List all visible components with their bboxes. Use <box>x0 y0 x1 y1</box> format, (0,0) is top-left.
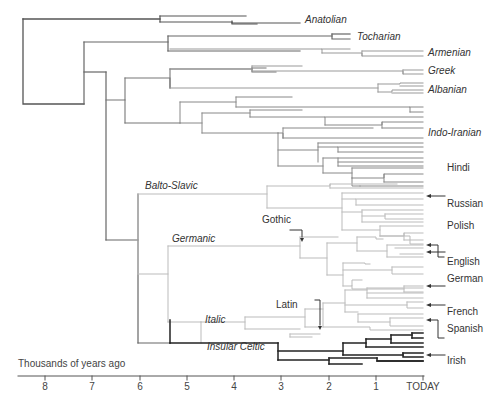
label-anatolian: Anatolian <box>304 14 347 25</box>
label-french: French <box>447 306 478 317</box>
label-armenian: Armenian <box>427 47 471 58</box>
label-latin: Latin <box>276 299 298 310</box>
balto-slavic-branch <box>138 184 423 274</box>
axis-tick-2: 2 <box>326 381 332 392</box>
core-branch <box>84 72 106 240</box>
label-spanish: Spanish <box>447 323 483 334</box>
label-greek: Greek <box>428 65 456 76</box>
language-tree-diagram: Anatolian Tocharian Armenian Greek Alban… <box>0 0 496 401</box>
label-italic: Italic <box>205 314 226 325</box>
armenian-branch <box>170 49 423 56</box>
pointer-arrows <box>290 196 445 355</box>
label-gothic: Gothic <box>262 214 291 225</box>
label-german: German <box>447 273 483 284</box>
label-insular-celtic: Insular Celtic <box>207 341 265 352</box>
axis-tick-8: 8 <box>42 381 48 392</box>
label-polish: Polish <box>447 220 474 231</box>
axis-tick-4: 4 <box>231 381 237 392</box>
label-indo-iranian: Indo-Iranian <box>428 127 482 138</box>
axis-tick-3: 3 <box>278 381 284 392</box>
axis-title: Thousands of years ago <box>18 358 126 369</box>
anatolian-branch <box>160 16 300 24</box>
albanian-branch <box>170 83 423 93</box>
greek-branch <box>170 66 423 74</box>
indo-iranian-branch <box>180 97 423 186</box>
label-hindi: Hindi <box>447 162 470 173</box>
label-balto-slavic: Balto-Slavic <box>145 180 198 191</box>
root-branch <box>23 19 160 104</box>
axis-tick-today: TODAY <box>406 381 440 392</box>
label-germanic: Germanic <box>172 233 215 244</box>
label-russian: Russian <box>447 198 483 209</box>
time-axis <box>18 376 424 380</box>
label-albanian: Albanian <box>427 84 467 95</box>
label-english: English <box>447 256 480 267</box>
axis-tick-7: 7 <box>89 381 95 392</box>
label-irish: Irish <box>447 355 466 366</box>
axis-tick-5: 5 <box>184 381 190 392</box>
axis-tick-6: 6 <box>137 381 143 392</box>
label-tocharian: Tocharian <box>357 31 401 42</box>
axis-tick-1: 1 <box>373 381 379 392</box>
